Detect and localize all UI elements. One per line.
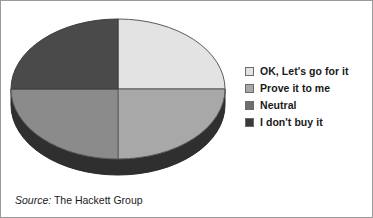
pie-slice-i-dont-buy-it	[11, 19, 118, 89]
pie-slice-neutral	[11, 89, 118, 159]
legend-item-0: OK, Let's go for it	[245, 63, 373, 80]
legend-swatch-ok-lets-go-for-it	[245, 67, 254, 76]
legend-label-1: Prove it to me	[260, 83, 330, 94]
legend-swatch-neutral	[245, 101, 254, 110]
source-note: Source: The Hackett Group	[15, 194, 143, 206]
pie-slices	[11, 19, 225, 159]
legend-label-0: OK, Let's go for it	[260, 66, 349, 77]
pie-slice-ok-lets-go-for-it	[118, 19, 225, 89]
legend-label-2: Neutral	[260, 100, 297, 111]
legend-item-1: Prove it to me	[245, 80, 373, 97]
pie-chart-svg	[1, 1, 246, 186]
source-value: The Hackett Group	[54, 194, 143, 206]
legend-item-3: I don't buy it	[245, 114, 373, 131]
pie-slice-prove-it-to-me	[118, 89, 225, 159]
legend-swatch-i-dont-buy-it	[245, 118, 254, 127]
chart-legend: OK, Let's go for it Prove it to me Neutr…	[245, 63, 373, 131]
legend-swatch-prove-it-to-me	[245, 84, 254, 93]
pie-chart-area	[1, 1, 246, 186]
source-label: Source:	[15, 194, 51, 206]
figure-card: OK, Let's go for it Prove it to me Neutr…	[0, 0, 373, 218]
legend-item-2: Neutral	[245, 97, 373, 114]
legend-label-3: I don't buy it	[260, 117, 323, 128]
